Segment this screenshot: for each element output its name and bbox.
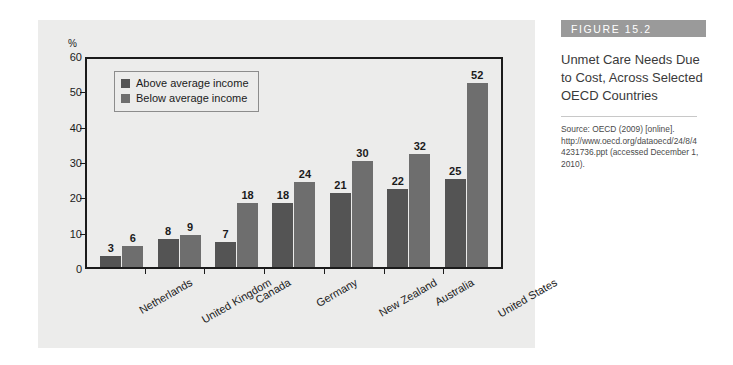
figure-source-text: Source: OECD (2009) [online]. http://www…: [561, 124, 701, 170]
bar[interactable]: [352, 161, 373, 267]
figure-caption-column: FIGURE 15.2 Unmet Care Needs Due to Cost…: [561, 20, 706, 170]
x-axis-category-labels: NetherlandsUnited KingdomCanadaGermanyNe…: [85, 272, 503, 342]
bar-value-label: 18: [277, 189, 289, 201]
bar-value-label: 30: [356, 147, 368, 159]
bar-value-label: 7: [222, 228, 228, 240]
x-axis-category-text: Canada: [253, 276, 292, 306]
y-axis-tick-label: 30: [56, 157, 82, 169]
bar[interactable]: [294, 182, 315, 267]
y-axis-tick-label: 60: [56, 51, 82, 63]
legend-swatch-icon-below-average: [121, 94, 130, 103]
bar-value-label: 24: [299, 168, 311, 180]
caption-divider: [561, 116, 697, 117]
bar[interactable]: [180, 235, 201, 267]
bar-column: 21: [330, 59, 351, 267]
bar-value-label: 52: [471, 69, 483, 81]
bar[interactable]: [387, 189, 408, 267]
x-axis-category-text: Germany: [314, 276, 359, 309]
bar-value-label: 25: [449, 165, 461, 177]
x-axis-category-label: New Zealand: [368, 272, 433, 290]
y-axis-tick-label: 10: [56, 228, 82, 240]
figure-chart-panel: % 0102030405060 36897181824213022322552 …: [38, 20, 535, 348]
x-axis-category-label: United States: [487, 272, 553, 290]
bar-group: 2552: [445, 59, 488, 267]
bar[interactable]: [158, 239, 179, 267]
bar-group: 2232: [387, 59, 430, 267]
chart-legend: Above average income Below average incom…: [114, 71, 259, 112]
legend-label-above-average: Above average income: [136, 76, 249, 91]
bar-column: 25: [445, 59, 466, 267]
bar-value-label: 9: [187, 221, 193, 233]
bar[interactable]: [445, 179, 466, 267]
bar-column: 22: [387, 59, 408, 267]
y-axis-tick-label: 50: [56, 86, 82, 98]
x-axis-category-text: United States: [496, 276, 559, 319]
bar-value-label: 22: [392, 175, 404, 187]
legend-item-above-average: Above average income: [121, 76, 249, 91]
bar-column: 18: [272, 59, 293, 267]
bar[interactable]: [272, 203, 293, 267]
bar[interactable]: [100, 256, 121, 267]
x-axis-category-label: Germany: [308, 272, 353, 290]
x-axis-category-label: Australia: [427, 272, 470, 290]
y-axis-tick-label: 20: [56, 192, 82, 204]
bar-value-label: 8: [165, 225, 171, 237]
bar-column: 52: [467, 59, 488, 267]
plot-frame: 36897181824213022322552 Above average in…: [85, 57, 503, 269]
bar-value-label: 3: [108, 242, 114, 254]
x-axis-category-text: Netherlands: [137, 276, 194, 316]
bar-column: 32: [409, 59, 430, 267]
figure-title: Unmet Care Needs Due to Cost, Across Sel…: [561, 51, 706, 105]
y-axis-unit-label: %: [68, 38, 77, 49]
bar-value-label: 18: [241, 189, 253, 201]
bar-column: 30: [352, 59, 373, 267]
legend-item-below-average: Below average income: [121, 91, 249, 106]
legend-label-below-average: Below average income: [136, 91, 247, 106]
bar[interactable]: [237, 203, 258, 267]
y-axis-tick-labels: 0102030405060: [50, 57, 82, 269]
bar[interactable]: [215, 242, 236, 267]
bar-value-label: 21: [334, 179, 346, 191]
bar-value-label: 6: [130, 232, 136, 244]
bar-group: 1824: [272, 59, 315, 267]
legend-swatch-icon-above-average: [121, 79, 130, 88]
y-axis-tick-label: 40: [56, 122, 82, 134]
bar[interactable]: [122, 246, 143, 267]
bar-column: 24: [294, 59, 315, 267]
bar-group: 2130: [330, 59, 373, 267]
figure-number-label: FIGURE 15.2: [571, 23, 652, 35]
x-axis-category-label: Netherlands: [129, 272, 188, 290]
y-axis-tick-label: 0: [56, 263, 82, 275]
bar[interactable]: [330, 193, 351, 267]
x-axis-category-label: Canada: [248, 272, 287, 290]
figure-number-bar: FIGURE 15.2: [561, 20, 706, 37]
bar[interactable]: [409, 154, 430, 267]
x-axis-category-text: Australia: [433, 276, 476, 308]
bar-value-label: 32: [414, 140, 426, 152]
bar[interactable]: [467, 83, 488, 267]
